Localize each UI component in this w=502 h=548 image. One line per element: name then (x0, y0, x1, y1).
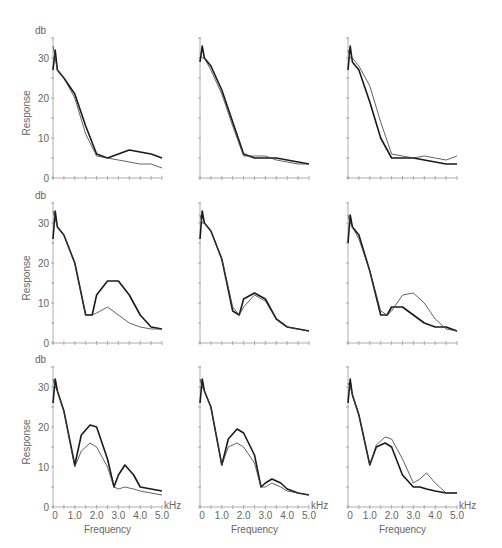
x-tick-label: 3.0 (406, 510, 420, 521)
curve-thick (200, 46, 309, 164)
curve-thick (53, 211, 162, 329)
x-tick-label: 2.0 (90, 510, 104, 521)
y-tick-label: 20 (38, 93, 50, 104)
x-tick-label: 0 (347, 510, 353, 521)
x-tick-label: 2.0 (237, 510, 251, 521)
x-tick-label: 4.0 (428, 510, 442, 521)
y-unit-label: db (35, 190, 47, 201)
y-tick-label: 10 (38, 462, 50, 473)
y-tick-label: 0 (43, 338, 49, 349)
curve-thin (348, 50, 457, 160)
x-tick-label: 0 (199, 510, 205, 521)
x-tick-label: 5.0 (450, 510, 464, 521)
x-tick-label: 5.0 (155, 510, 169, 521)
curve-thick (348, 215, 457, 331)
curve-thin (53, 379, 162, 495)
x-tick-label: 0 (52, 510, 58, 521)
x-tick-label: 1.0 (215, 510, 229, 521)
y-tick-label: 0 (43, 173, 49, 184)
x-tick-label: 1.0 (363, 510, 377, 521)
x-unit-label: kHz (164, 500, 181, 511)
x-unit-label: kHz (311, 500, 328, 511)
y-axis-title: Response (21, 419, 32, 464)
x-tick-label: 4.0 (280, 510, 294, 521)
curve-thin (200, 54, 309, 164)
y-tick-label: 30 (38, 53, 50, 64)
curve-thin (200, 215, 309, 331)
y-unit-label: db (35, 354, 47, 365)
curve-thick (348, 46, 457, 164)
x-tick-label: 4.0 (133, 510, 147, 521)
curve-thick (53, 379, 162, 491)
y-tick-label: 10 (38, 133, 50, 144)
curve-thick (348, 379, 457, 493)
x-tick-label: 3.0 (258, 510, 272, 521)
x-tick-label: 3.0 (111, 510, 125, 521)
y-tick-label: 20 (38, 422, 50, 433)
curve-thick (53, 50, 162, 158)
y-axis-title: Response (21, 90, 32, 135)
curve-thin (348, 215, 457, 331)
x-unit-label: kHz (459, 500, 476, 511)
y-unit-label: db (35, 25, 47, 36)
y-axis-title: Response (21, 255, 32, 300)
y-tick-label: 10 (38, 298, 50, 309)
curve-thin (200, 379, 309, 495)
x-tick-label: 5.0 (302, 510, 316, 521)
x-tick-label: 2.0 (385, 510, 399, 521)
y-tick-label: 20 (38, 258, 50, 269)
y-tick-label: 30 (38, 382, 50, 393)
x-tick-label: 1.0 (68, 510, 82, 521)
figure-grid: 0102030dbResponse0102030dbResponse010203… (0, 0, 502, 548)
y-tick-label: 30 (38, 218, 50, 229)
x-axis-title: Frequency (231, 524, 278, 535)
y-tick-label: 0 (43, 502, 49, 513)
x-axis-title: Frequency (84, 524, 131, 535)
curve-thin (53, 46, 162, 168)
x-axis-title: Frequency (379, 524, 426, 535)
curve-thick (200, 211, 309, 331)
curve-thin (53, 211, 162, 329)
